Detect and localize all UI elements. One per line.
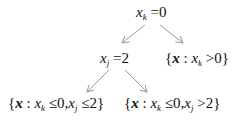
- cond2-sub: j: [75, 103, 78, 113]
- node-root-op: =: [150, 4, 158, 20]
- colon: :: [23, 95, 35, 111]
- decision-tree-diagram: xk =0 xj =2 {x : xk >0} {x : xk ≤0,xj ≤2…: [0, 0, 232, 120]
- node-leaf-j-le: {x : xk ≤0,xj ≤2}: [8, 96, 104, 113]
- set-var: x: [172, 50, 180, 66]
- edge-split-j-to-leaf-j-le: [87, 70, 109, 92]
- node-split-j: xj =2: [100, 51, 129, 68]
- edge-root-to-split-j: [122, 25, 145, 43]
- node-leaf-j-gt: {x : xk ≤0,xj >2}: [124, 96, 220, 113]
- node-root-var: x: [136, 4, 143, 20]
- node-split-j-sub: j: [107, 58, 110, 68]
- cond2-val: 2}: [206, 95, 221, 111]
- node-root: xk =0: [136, 5, 166, 22]
- set-var: x: [131, 95, 139, 111]
- cond2-val: 2}: [89, 95, 104, 111]
- edge-root-to-leaf-k-pos: [160, 25, 183, 43]
- cond1-op: ≤: [165, 95, 173, 111]
- set-var: x: [15, 95, 23, 111]
- cond2-sub: j: [191, 103, 194, 113]
- cond1-op: >: [206, 50, 214, 66]
- edge-split-j-to-leaf-j-gt: [125, 70, 147, 92]
- node-split-j-value: 2: [121, 50, 129, 66]
- node-root-value: 0: [159, 4, 167, 20]
- cond1-val: 0}: [214, 50, 229, 66]
- node-split-j-var: x: [100, 50, 107, 66]
- cond1-val: 0,: [57, 95, 68, 111]
- node-leaf-k-pos: {x : xk >0}: [165, 51, 229, 68]
- cond1-val: 0,: [173, 95, 184, 111]
- cond2-var: x: [184, 95, 191, 111]
- cond2-op: >: [197, 95, 205, 111]
- cond1-sub: k: [157, 103, 161, 113]
- node-root-sub: k: [143, 12, 147, 22]
- colon: :: [139, 95, 151, 111]
- cond1-op: ≤: [49, 95, 57, 111]
- cond1-sub: k: [41, 103, 45, 113]
- cond2-var: x: [68, 95, 75, 111]
- colon: :: [180, 50, 192, 66]
- cond1-sub: k: [198, 58, 202, 68]
